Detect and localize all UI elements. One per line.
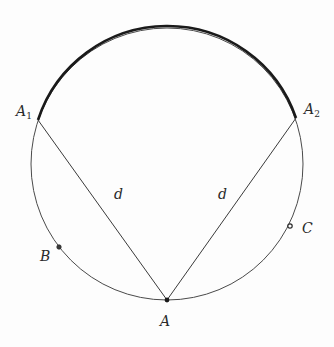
segment-A-A1 xyxy=(38,120,167,300)
diagram-canvas: A1 A2 d d B C A xyxy=(0,0,334,347)
label-A1: A1 xyxy=(16,104,32,121)
label-B: B xyxy=(40,249,50,263)
label-C: C xyxy=(302,221,313,235)
point-B xyxy=(57,245,61,249)
segment-A-A2 xyxy=(167,118,296,300)
label-d-right: d xyxy=(218,187,227,201)
thick-arc-A1-A2 xyxy=(38,26,296,120)
label-A: A xyxy=(160,314,170,328)
point-A xyxy=(165,298,170,303)
circle xyxy=(31,28,303,300)
point-C xyxy=(288,224,292,228)
label-d-left: d xyxy=(114,187,123,201)
circle-diagram xyxy=(0,0,334,347)
label-A2: A2 xyxy=(304,102,320,119)
